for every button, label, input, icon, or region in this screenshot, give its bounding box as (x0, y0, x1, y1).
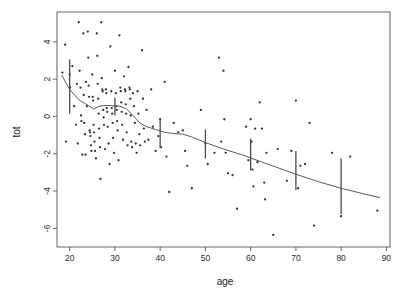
data-point (87, 57, 89, 59)
data-point (182, 129, 184, 131)
data-point (92, 96, 94, 98)
data-point (77, 142, 79, 144)
data-point (87, 30, 89, 32)
x-tick-label: 40 (155, 253, 165, 263)
x-axis-title: age (217, 276, 234, 287)
data-point (114, 70, 116, 72)
data-point (207, 163, 209, 165)
x-tick-label: 50 (201, 253, 211, 263)
data-point (89, 131, 91, 133)
data-point (93, 131, 95, 133)
data-point (111, 113, 113, 115)
data-point (225, 152, 227, 154)
data-point (100, 21, 102, 23)
data-point (83, 122, 85, 124)
data-point (98, 127, 100, 129)
data-point (259, 101, 261, 103)
data-point (75, 124, 77, 126)
data-point (104, 148, 106, 150)
data-point (138, 133, 140, 135)
data-point (95, 157, 97, 159)
data-point (113, 152, 115, 154)
data-point (277, 148, 279, 150)
chart-figure: 2030405060708090 420-2-4-6 age tot (0, 0, 413, 300)
data-point (297, 187, 299, 189)
data-point (126, 144, 128, 146)
data-point (111, 107, 113, 109)
data-point (131, 146, 133, 148)
data-point (286, 180, 288, 182)
data-point (331, 152, 333, 154)
scatter-plot-canvas: 2030405060708090 420-2-4-6 age tot (0, 0, 413, 300)
x-tick-label: 90 (382, 253, 392, 263)
data-point (168, 191, 170, 193)
data-point (120, 90, 122, 92)
data-point (115, 92, 117, 94)
data-point (98, 137, 100, 139)
data-point (256, 161, 258, 163)
data-point (222, 70, 224, 72)
y-tick-label: 4 (42, 39, 52, 44)
data-point (349, 155, 351, 157)
data-point (97, 83, 99, 85)
data-point (103, 124, 105, 126)
data-point (191, 187, 193, 189)
data-point (164, 81, 166, 83)
data-point (265, 152, 267, 154)
data-point (272, 234, 274, 236)
y-tick-label: 0 (42, 114, 52, 119)
data-point (121, 124, 123, 126)
data-point (106, 111, 108, 113)
data-point (112, 137, 114, 139)
data-point (64, 43, 66, 45)
data-point (112, 122, 114, 124)
data-point (96, 55, 98, 57)
data-point (142, 98, 144, 100)
data-point (261, 127, 263, 129)
data-point (223, 118, 225, 120)
data-point (79, 86, 81, 88)
data-point (127, 66, 129, 68)
data-point (186, 165, 188, 167)
data-point (247, 159, 249, 161)
data-point (88, 96, 90, 98)
data-point (290, 150, 292, 152)
data-point (73, 105, 75, 107)
data-point (105, 92, 107, 94)
data-point (173, 122, 175, 124)
data-point (101, 77, 103, 79)
data-point (295, 99, 297, 101)
data-point (129, 98, 131, 100)
data-point (177, 131, 179, 133)
data-point (129, 88, 131, 90)
data-point (99, 178, 101, 180)
data-point (105, 88, 107, 90)
y-tick-label: 2 (42, 77, 52, 82)
data-point (92, 99, 94, 101)
data-point (107, 126, 109, 128)
y-axis-title: tot (11, 126, 22, 137)
data-point (218, 57, 220, 59)
y-tick-label: -6 (42, 224, 52, 232)
data-point (99, 146, 101, 148)
data-point (84, 133, 86, 135)
data-point (227, 172, 229, 174)
data-point (108, 163, 110, 165)
data-point (135, 152, 137, 154)
data-point (116, 109, 118, 111)
data-point (134, 122, 136, 124)
data-point (231, 174, 233, 176)
data-point (82, 32, 84, 34)
x-tick-label: 30 (110, 253, 120, 263)
data-point (97, 113, 99, 115)
data-point (81, 154, 83, 156)
data-point (126, 131, 128, 133)
data-point (304, 163, 306, 165)
data-point (145, 109, 147, 111)
data-point (119, 86, 121, 88)
data-point (61, 71, 63, 73)
data-point (85, 81, 87, 83)
data-point (308, 122, 310, 124)
x-tick-label: 70 (291, 253, 301, 263)
data-point (184, 150, 186, 152)
